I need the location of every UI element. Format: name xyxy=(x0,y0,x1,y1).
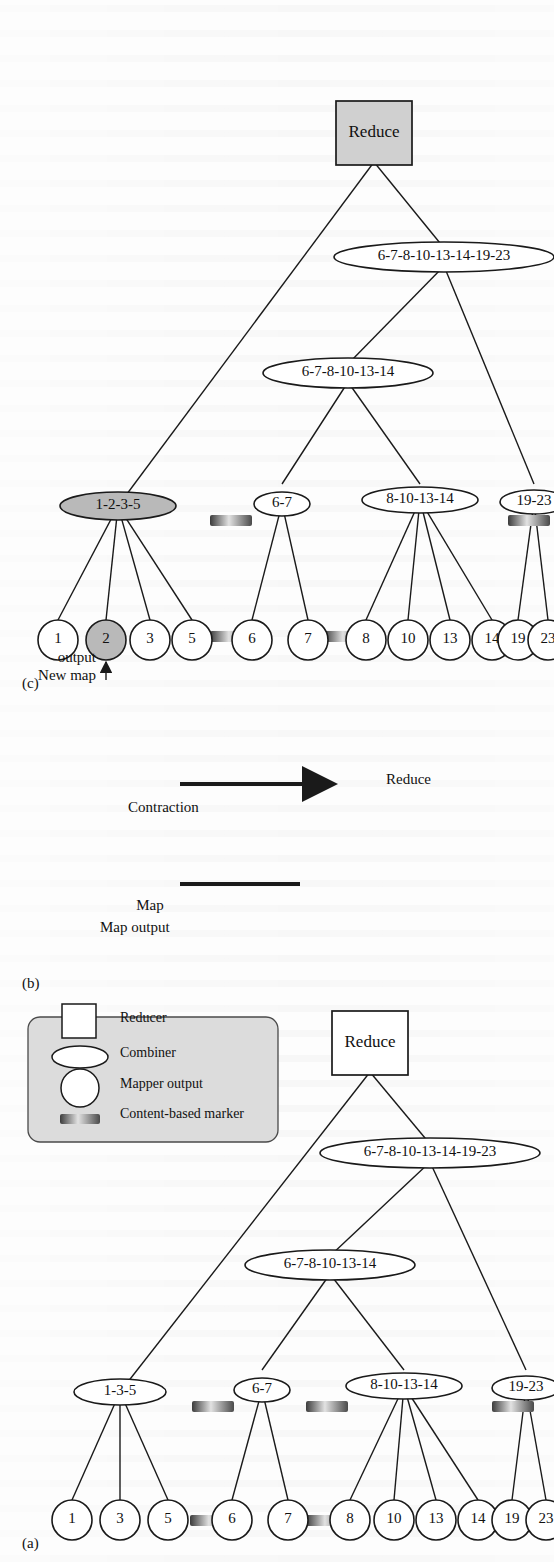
combiner-label: 1-3-5 xyxy=(104,1382,137,1398)
combiner-label: 1-2-3-5 xyxy=(96,496,141,512)
legend-content-based-marker-icon xyxy=(60,1114,100,1124)
edge xyxy=(262,1390,288,1500)
edge xyxy=(282,504,308,620)
edge xyxy=(330,1162,430,1256)
legend-label-content-based-marker: Content-based marker xyxy=(120,1106,244,1121)
reducer-node[interactable]: Reduce xyxy=(332,1011,408,1075)
reducer-node[interactable]: Reduce xyxy=(336,101,412,165)
edge xyxy=(420,500,492,620)
mapper-output-node[interactable]: 7 xyxy=(288,620,328,660)
combiner-node[interactable]: 6-7 xyxy=(254,492,310,516)
mapper-output-node[interactable]: 5 xyxy=(172,620,212,660)
mapper-output-label: 7 xyxy=(284,1510,292,1526)
new-map-output-annotation-line1: New map xyxy=(38,667,96,683)
mapper-output-label: 14 xyxy=(471,1510,487,1526)
mapper-output-label: 19 xyxy=(511,630,526,646)
combiner-node[interactable]: 6-7 xyxy=(234,1378,290,1402)
mapper-output-label: 2 xyxy=(102,630,110,646)
mapper-output-label: 6 xyxy=(248,630,256,646)
combiner-label: 19-23 xyxy=(517,492,552,508)
edge xyxy=(404,1386,436,1500)
combiner-label: 6-7-8-10-13-14-19-23 xyxy=(378,247,510,263)
panel-b-label: (b) xyxy=(22,975,40,992)
mapper-output-label: 10 xyxy=(401,630,416,646)
map-output-label: Map output xyxy=(100,919,170,935)
combiner-node[interactable]: 6-7-8-10-13-14 xyxy=(263,358,433,388)
mapper-output-label: 8 xyxy=(362,630,370,646)
map-output-label-line1: Map xyxy=(136,897,164,913)
edge xyxy=(370,1072,430,1144)
panel-a-canvas: 1 3 5 6 7 8 10 xyxy=(0,1002,554,1562)
legend: Content-based marker Mapper output Combi… xyxy=(28,1004,278,1142)
edge xyxy=(262,1274,330,1370)
legend-label-reducer: Reducer xyxy=(120,1010,167,1025)
combiner-node[interactable]: 6-7-8-10-13-14-19-23 xyxy=(320,1138,540,1168)
edge xyxy=(106,506,118,620)
legend-combiner-icon xyxy=(52,1046,108,1068)
figure-rotated-container: 1 3 5 6 7 8 10 xyxy=(0,0,554,1562)
edge xyxy=(118,506,150,620)
edge xyxy=(330,1274,404,1370)
mapper-output-node[interactable]: 3 xyxy=(100,1500,140,1540)
combiner-node[interactable]: 19-23 xyxy=(500,490,554,514)
mapper-output-label: 5 xyxy=(164,1510,172,1526)
mapper-output-node[interactable]: 13 xyxy=(416,1500,456,1540)
contraction-label: Contraction xyxy=(128,799,199,815)
reduce-label: Reduce xyxy=(386,771,431,787)
mapper-output-node[interactable]: 8 xyxy=(346,620,386,660)
panel-b-canvas: Map Map output Contraction Reduce (b) xyxy=(0,702,554,1002)
panel-c-canvas: 1 2 3 5 6 7 8 xyxy=(0,2,554,702)
content-based-marker xyxy=(306,1401,348,1412)
combiner-node[interactable]: 1-3-5 xyxy=(74,1379,166,1405)
mapper-output-node[interactable]: 6 xyxy=(212,1500,252,1540)
edge xyxy=(58,506,118,620)
combiner-label: 6-7 xyxy=(272,494,292,510)
mapper-output-node[interactable]: 7 xyxy=(268,1500,308,1540)
combiner-label: 8-10-13-14 xyxy=(370,1376,438,1392)
legend-label-mapper-output: Mapper output xyxy=(120,1076,203,1091)
panel-c-label: (c) xyxy=(22,675,39,692)
combiner-node[interactable]: 19-23 xyxy=(492,1376,554,1400)
edge xyxy=(118,162,374,506)
mapper-output-node[interactable]: 13 xyxy=(430,620,470,660)
edge xyxy=(118,506,192,620)
mapper-output-label: 1 xyxy=(54,630,62,646)
edge xyxy=(366,500,420,620)
panel-b: Map Map output Contraction Reduce (b) xyxy=(0,702,554,1002)
mapper-output-node[interactable]: 23 xyxy=(526,1500,554,1540)
mapper-output-label: 23 xyxy=(541,630,554,646)
edge xyxy=(420,500,450,620)
combiner-node-shaded[interactable]: 1-2-3-5 xyxy=(60,492,176,520)
edge xyxy=(408,500,420,620)
reducer-label: Reduce xyxy=(349,122,400,141)
mapper-output-label: 7 xyxy=(304,630,312,646)
mapper-output-label: 6 xyxy=(228,1510,236,1526)
mapper-output-node[interactable]: 10 xyxy=(374,1500,414,1540)
new-map-output-annotation-line2: output xyxy=(58,649,97,665)
mapper-output-label: 3 xyxy=(116,1510,124,1526)
mapper-output-node[interactable]: 10 xyxy=(388,620,428,660)
mapper-output-node[interactable]: 1 xyxy=(52,1500,92,1540)
panel-c: 1 2 3 5 6 7 8 xyxy=(0,2,554,702)
mapper-output-node[interactable]: 5 xyxy=(148,1500,188,1540)
content-based-marker xyxy=(210,515,252,526)
reducer-label: Reduce xyxy=(345,1032,396,1051)
combiner-label: 8-10-13-14 xyxy=(386,490,454,506)
panel-a-label: (a) xyxy=(22,1535,39,1552)
edge xyxy=(348,382,420,484)
edge xyxy=(430,1162,526,1370)
mapper-output-label: 5 xyxy=(188,630,196,646)
mapper-output-node[interactable]: 6 xyxy=(232,620,272,660)
mapper-output-label: 23 xyxy=(539,1510,554,1526)
legend-label-combiner: Combiner xyxy=(120,1045,176,1060)
edge xyxy=(120,1392,168,1500)
combiner-node[interactable]: 8-10-13-14 xyxy=(346,1373,462,1399)
legend-mapper-output-icon xyxy=(61,1069,99,1107)
mapper-output-node[interactable]: 8 xyxy=(330,1500,370,1540)
combiner-node[interactable]: 6-7-8-10-13-14 xyxy=(245,1250,415,1280)
combiner-node[interactable]: 6-7-8-10-13-14-19-23 xyxy=(334,242,554,272)
mapper-output-label: 13 xyxy=(443,630,458,646)
edge xyxy=(348,266,444,364)
mapper-output-node[interactable]: 3 xyxy=(130,620,170,660)
combiner-node[interactable]: 8-10-13-14 xyxy=(362,487,478,513)
